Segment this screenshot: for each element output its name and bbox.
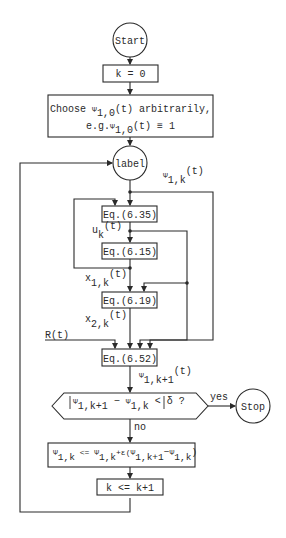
- stop-label: Stop: [241, 402, 265, 413]
- junction-dot: [128, 190, 132, 194]
- eq615-label: Eq.(6.15): [103, 247, 157, 258]
- junction-dot: [128, 266, 132, 270]
- init-k-label: k = 0: [115, 69, 145, 80]
- flowchart: Start k = 0 Choose Ψ1,0(t) arbitrarily, …: [0, 0, 286, 538]
- edge-label-yes: yes: [210, 392, 228, 403]
- junction-dot: [185, 281, 189, 285]
- start-label: Start: [115, 36, 145, 47]
- edge-uk-to-eq619: [144, 283, 187, 291]
- junction-dot: [128, 229, 132, 233]
- edge-rt-to-eq652: [45, 340, 115, 348]
- edge-label-rt: R(t): [45, 330, 69, 341]
- edge-label-psi1k1: Ψ1,k+1(t): [139, 366, 192, 386]
- edge-label-psi1k: Ψ1,k(t): [163, 166, 204, 186]
- edge-label-no: no: [134, 422, 146, 433]
- edge-label-uk: uk(t): [92, 221, 122, 241]
- increment-label: k <= k+1: [106, 483, 154, 494]
- edge-label-x2k: x2,k(t): [85, 310, 127, 330]
- eq652-label: Eq.(6.52): [103, 354, 157, 365]
- eq619-label: Eq.(6.19): [103, 296, 157, 307]
- edge-label-x1k: x1,k(t): [85, 269, 127, 289]
- eq635-label: Eq.(6.35): [103, 210, 157, 221]
- label-node-text: label: [115, 159, 145, 170]
